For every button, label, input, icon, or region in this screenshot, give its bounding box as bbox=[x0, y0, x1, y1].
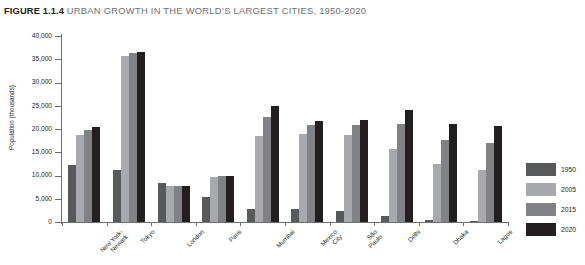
x-axis-tick bbox=[508, 222, 509, 226]
x-axis-label: Lagos bbox=[496, 228, 514, 246]
figure-title: FIGURE 1.1.4 URBAN GROWTH IN THE WORLD’S… bbox=[4, 5, 366, 16]
y-axis-tick bbox=[55, 129, 62, 130]
bar bbox=[441, 140, 449, 222]
bar bbox=[129, 53, 137, 222]
bar bbox=[315, 121, 323, 222]
bar bbox=[352, 125, 360, 222]
bar bbox=[202, 197, 210, 222]
bar bbox=[486, 143, 494, 222]
bar bbox=[68, 165, 76, 222]
figure-number: FIGURE 1.1.4 bbox=[4, 5, 64, 16]
bar bbox=[158, 183, 166, 222]
y-axis-tick-label: 5,000 bbox=[8, 196, 52, 203]
x-axis-tick bbox=[62, 222, 63, 226]
x-axis-tick bbox=[330, 222, 331, 226]
bar bbox=[84, 130, 92, 222]
plot-bars bbox=[62, 36, 508, 222]
legend-swatch bbox=[526, 203, 556, 216]
bar bbox=[226, 176, 234, 223]
y-axis-tick bbox=[55, 176, 62, 177]
y-axis-tick bbox=[55, 59, 62, 60]
bar bbox=[425, 220, 433, 222]
x-axis-tick bbox=[285, 222, 286, 226]
legend-item[interactable]: 2020 bbox=[526, 223, 584, 238]
legend-item[interactable]: 2015 bbox=[526, 203, 584, 218]
y-axis-tick-label: 0 bbox=[8, 219, 52, 226]
legend-swatch bbox=[526, 163, 556, 176]
bar bbox=[255, 136, 263, 222]
y-axis-tick bbox=[55, 106, 62, 107]
bar bbox=[76, 135, 84, 222]
x-axis-label: New York- Newark bbox=[98, 228, 129, 259]
y-axis-tick-label: 30,000 bbox=[8, 79, 52, 86]
bar bbox=[397, 124, 405, 222]
x-axis-label: Tokyo bbox=[139, 228, 156, 245]
bar bbox=[344, 135, 352, 222]
bar bbox=[247, 209, 255, 222]
bar bbox=[113, 170, 121, 222]
x-axis-label: São Paulo bbox=[362, 228, 384, 250]
x-axis-label: Delhi bbox=[406, 228, 422, 244]
y-axis-tick bbox=[55, 36, 62, 37]
bar bbox=[166, 186, 174, 222]
figure-title-text: URBAN GROWTH IN THE WORLD’S LARGEST CITI… bbox=[67, 5, 366, 16]
y-axis-title: Population (thousands) bbox=[8, 63, 15, 173]
bar bbox=[291, 209, 299, 222]
x-axis-tick bbox=[107, 222, 108, 226]
x-axis-label: Dhaka bbox=[452, 228, 470, 246]
legend-item[interactable]: 2005 bbox=[526, 183, 584, 198]
bar bbox=[137, 52, 145, 222]
x-axis-tick bbox=[151, 222, 152, 226]
x-axis-label: Paris bbox=[228, 228, 244, 244]
y-axis-tick-label: 15,000 bbox=[8, 149, 52, 156]
bar bbox=[307, 125, 315, 222]
bar bbox=[433, 164, 441, 222]
x-axis-tick bbox=[196, 222, 197, 226]
y-axis-tick-label: 10,000 bbox=[8, 172, 52, 179]
legend-item[interactable]: 1950 bbox=[526, 163, 584, 178]
bar bbox=[271, 106, 279, 222]
x-axis-label: Mumbai bbox=[275, 228, 296, 249]
x-axis-tick bbox=[419, 222, 420, 226]
bar bbox=[218, 176, 226, 223]
bar bbox=[336, 211, 344, 222]
bar bbox=[299, 134, 307, 222]
x-axis-label: London bbox=[185, 228, 205, 248]
bar bbox=[182, 186, 190, 222]
bar bbox=[92, 127, 100, 222]
y-axis-tick-label: 25,000 bbox=[8, 103, 52, 110]
bar bbox=[449, 124, 457, 222]
bar bbox=[470, 221, 478, 223]
bar bbox=[121, 56, 129, 222]
y-axis-tick-label: 40,000 bbox=[8, 33, 52, 40]
bar bbox=[360, 120, 368, 222]
legend-label: 2015 bbox=[561, 206, 576, 213]
legend-swatch bbox=[526, 183, 556, 196]
bar bbox=[405, 110, 413, 222]
y-axis-tick bbox=[55, 222, 62, 223]
bar bbox=[494, 126, 502, 222]
bar bbox=[210, 177, 218, 223]
chart-legend: 1950200520152020 bbox=[526, 163, 584, 243]
x-axis-tick bbox=[240, 222, 241, 226]
y-axis-tick-label: 20,000 bbox=[8, 126, 52, 133]
bar bbox=[478, 170, 486, 222]
legend-label: 2020 bbox=[561, 226, 576, 233]
legend-label: 1950 bbox=[561, 166, 576, 173]
y-axis-tick bbox=[55, 152, 62, 153]
y-axis-tick-label: 35,000 bbox=[8, 56, 52, 63]
bar bbox=[263, 117, 271, 222]
bar bbox=[174, 186, 182, 222]
x-axis-tick bbox=[374, 222, 375, 226]
y-axis-tick bbox=[55, 83, 62, 84]
legend-swatch bbox=[526, 223, 556, 236]
chart-area: 05,00010,00015,00020,00025,00030,00035,0… bbox=[0, 22, 585, 265]
legend-label: 2005 bbox=[561, 186, 576, 193]
x-axis-label: Mexico City bbox=[319, 228, 344, 253]
y-axis-tick bbox=[55, 199, 62, 200]
bar bbox=[389, 149, 397, 222]
x-axis-tick bbox=[463, 222, 464, 226]
bar bbox=[381, 216, 389, 222]
